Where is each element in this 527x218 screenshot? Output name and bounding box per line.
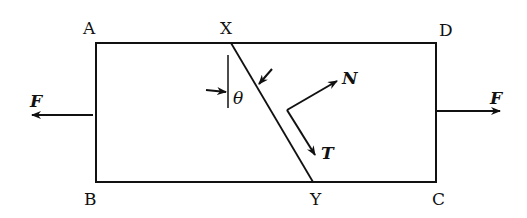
tangential-label: T [321, 143, 335, 163]
corner-label-a: A [82, 18, 96, 38]
stress-diagram: A D B C X Y F F θ N T [0, 0, 527, 218]
left-force-label: F [29, 91, 44, 111]
corner-label-b: B [84, 189, 97, 209]
normal-vector-arrow [287, 81, 337, 110]
angle-label-theta: θ [233, 88, 243, 108]
right-force-label: F [489, 88, 504, 108]
tangential-vector-arrow [287, 110, 315, 155]
corner-label-d: D [439, 20, 453, 40]
angle-arrow-left-icon [206, 90, 226, 92]
angle-arrow-right-icon [259, 69, 272, 84]
plane-label-y: Y [309, 189, 322, 209]
block-rectangle [96, 43, 436, 182]
plane-label-x: X [220, 18, 233, 38]
inclined-plane-xy [231, 43, 313, 182]
normal-label: N [341, 68, 359, 88]
corner-label-c: C [432, 189, 445, 209]
